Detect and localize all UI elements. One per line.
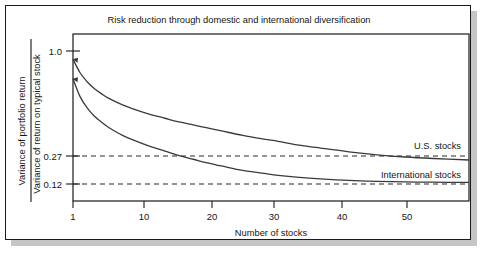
y-tick-label-012: 0.12	[44, 179, 63, 190]
series-curve-international-stocks	[73, 79, 469, 183]
x-tick-label-1: 1	[70, 211, 75, 222]
x-tick-label-30: 30	[269, 211, 280, 222]
x-tick-label-10: 10	[139, 211, 150, 222]
y-axis-denominator-label: Variance of return on typical stock	[32, 54, 42, 194]
chart-canvas: Risk reduction through domestic and inte…	[6, 6, 472, 241]
figure-card: Risk reduction through domestic and inte…	[5, 5, 471, 240]
series-curve-us-stocks	[73, 59, 469, 160]
series-label-international-stocks: International stocks	[381, 170, 461, 180]
y-tick-label-1: 1.0	[49, 46, 62, 57]
x-tick-label-20: 20	[207, 211, 218, 222]
x-axis-title: Number of stocks	[235, 228, 308, 238]
x-tick-label-50: 50	[402, 211, 413, 222]
y-tick-label-027: 0.27	[44, 151, 63, 162]
x-tick-label-40: 40	[337, 211, 348, 222]
figure-root: Risk reduction through domestic and inte…	[0, 0, 489, 257]
y-axis-numerator-label: Variance of portfolio return	[17, 77, 27, 186]
series-label-us-stocks: U.S. stocks	[414, 141, 461, 151]
chart-title: Risk reduction through domestic and inte…	[107, 15, 370, 25]
